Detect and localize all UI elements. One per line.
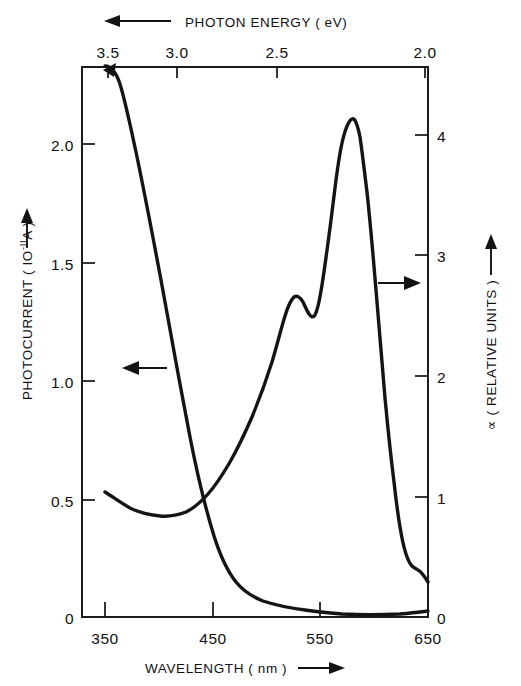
left-axis-title-group: PHOTOCURRENT ( IO-IIA ) xyxy=(17,208,35,400)
bottom-axis-title: WAVELENGTH ( nm ) xyxy=(145,661,287,676)
right-tick-label-2: 2 xyxy=(437,369,446,386)
top-tick-label-1: 3.0 xyxy=(165,44,188,61)
absorption-arrow xyxy=(378,276,421,290)
figure-container: PHOTON ENERGY ( eV) 3.5 3.0 2.5 2.0 0 xyxy=(0,0,521,686)
left-axis-title-main: PHOTOCURRENT ( IO xyxy=(20,250,35,400)
top-tick-label-3: 2.0 xyxy=(413,44,436,61)
right-ticks xyxy=(415,135,428,497)
left-tick-labels: 0 0.5 1.0 1.5 2.0 xyxy=(51,137,74,627)
up-arrow-icon-right xyxy=(485,234,497,249)
top-tick-label-0: 3.5 xyxy=(96,44,119,61)
spectrum-plot: PHOTON ENERGY ( eV) 3.5 3.0 2.5 2.0 0 xyxy=(0,0,521,686)
bottom-tick-label-2: 550 xyxy=(306,630,333,647)
top-axis-title-group: PHOTON ENERGY ( eV) xyxy=(104,15,347,30)
photocurrent-arrow xyxy=(122,361,167,375)
right-tick-label-1: 1 xyxy=(437,490,446,507)
right-tick-label-3: 3 xyxy=(437,248,446,265)
left-tick-label-0: 0 xyxy=(65,610,74,627)
left-arrow-icon-photocurrent xyxy=(122,361,139,375)
up-arrow-icon-left xyxy=(21,208,33,223)
left-tick-label-3: 1.5 xyxy=(51,256,74,273)
right-tick-label-4: 4 xyxy=(437,128,446,145)
right-axis-title: ∝ ( RELATIVE UNITS ) xyxy=(484,280,499,430)
bottom-tick-label-3: 650 xyxy=(414,630,441,647)
left-ticks xyxy=(82,144,95,500)
top-tick-labels: 3.5 3.0 2.5 2.0 xyxy=(96,44,436,61)
top-tick-label-2: 2.5 xyxy=(265,44,288,61)
bottom-ticks xyxy=(105,602,320,617)
bottom-tick-label-0: 350 xyxy=(91,630,118,647)
top-ticks xyxy=(108,67,425,78)
left-tick-label-4: 2.0 xyxy=(51,137,74,154)
absorption-curve xyxy=(105,119,428,582)
left-arrow-icon xyxy=(104,15,120,27)
bottom-tick-labels: 350 450 550 650 xyxy=(91,630,441,647)
svg-text:PHOTOCURRENT ( IO-IIA ): PHOTOCURRENT ( IO-IIA ) xyxy=(17,221,35,400)
left-tick-label-2: 1.0 xyxy=(51,374,74,391)
top-axis-title: PHOTON ENERGY ( eV) xyxy=(185,15,347,30)
right-tick-labels: 0 1 2 3 4 xyxy=(437,128,446,627)
right-axis-title-group: ∝ ( RELATIVE UNITS ) xyxy=(484,234,499,430)
bottom-axis-title-group: WAVELENGTH ( nm ) xyxy=(145,661,345,676)
right-tick-label-0: 0 xyxy=(437,610,446,627)
bottom-tick-label-1: 450 xyxy=(199,630,226,647)
right-arrow-icon-absorption xyxy=(404,276,421,290)
right-arrow-icon xyxy=(329,662,345,674)
left-tick-label-1: 0.5 xyxy=(51,493,74,510)
